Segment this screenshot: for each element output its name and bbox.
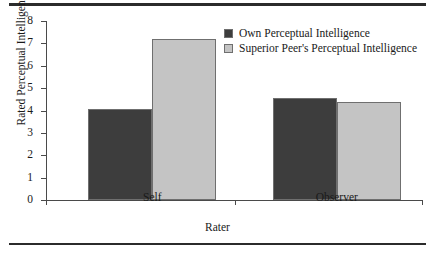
y-tick-label: 2 xyxy=(27,150,33,162)
y-tick: 8 xyxy=(41,21,46,22)
x-tick xyxy=(235,200,236,205)
y-tick: 7 xyxy=(41,43,46,44)
y-tick-label: 6 xyxy=(27,60,33,72)
legend-label: Own Perceptual Intelligence xyxy=(239,28,370,40)
x-group-label: Observer xyxy=(316,192,358,204)
y-tick-label: 1 xyxy=(27,172,33,184)
y-tick: 1 xyxy=(41,178,46,179)
top-rule xyxy=(9,3,426,6)
y-tick-label: 5 xyxy=(27,82,33,94)
bar xyxy=(88,109,152,200)
y-tick: 6 xyxy=(41,66,46,67)
bottom-rule xyxy=(9,243,426,245)
y-axis-title: Rated Perceptual Intelligence xyxy=(16,0,28,148)
legend-swatch-icon xyxy=(224,44,233,53)
legend-label: Superior Peer's Perceptual Intelligence xyxy=(239,43,417,55)
legend-item: Own Perceptual Intelligence xyxy=(224,28,417,40)
y-tick-label: 8 xyxy=(27,15,33,27)
bar xyxy=(152,39,216,200)
y-tick-label: 3 xyxy=(27,127,33,139)
x-group-label: Self xyxy=(143,192,162,204)
y-tick-label: 7 xyxy=(27,38,33,50)
figure-panel: Rated Perceptual Intelligence 012345678 … xyxy=(0,0,435,253)
x-tick xyxy=(422,200,423,205)
x-tick xyxy=(46,200,47,205)
y-tick: 5 xyxy=(41,88,46,89)
y-tick: 2 xyxy=(41,155,46,156)
y-tick: 3 xyxy=(41,133,46,134)
y-tick: 4 xyxy=(41,111,46,112)
legend-swatch-icon xyxy=(224,29,233,38)
y-tick-label: 4 xyxy=(27,105,33,117)
y-axis-line xyxy=(46,21,47,200)
y-tick-label: 0 xyxy=(27,194,33,206)
legend-item: Superior Peer's Perceptual Intelligence xyxy=(224,43,417,55)
bar xyxy=(273,98,337,200)
bar xyxy=(337,102,401,200)
legend: Own Perceptual IntelligenceSuperior Peer… xyxy=(224,28,417,57)
x-axis-title: Rater xyxy=(0,222,435,234)
